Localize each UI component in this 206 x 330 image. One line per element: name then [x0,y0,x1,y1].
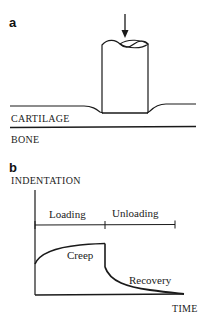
creep-label: Creep [67,249,94,261]
phase-timeline: Loading Unloading [35,207,175,229]
panel-b: b INDENTATION TIME Loading Unloading Cre… [9,160,198,314]
down-arrow-icon [122,14,129,38]
phase-label-loading: Loading [49,208,86,220]
recovery-label: Recovery [129,274,172,286]
x-axis [35,294,184,295]
panel-a: a CARTILAGE BONE [9,14,196,145]
phase-label-unloading: Unloading [112,207,159,219]
indenter-cylinder [102,40,148,113]
indentation-diagram: a CARTILAGE BONE b INDENTATION TIME [0,0,206,330]
bone-boundary [10,127,196,128]
cartilage-label: CARTILAGE [11,113,70,124]
bone-label: BONE [11,134,39,145]
x-axis-label: TIME [172,303,198,314]
panel-b-label: b [9,160,17,175]
y-axis-label: INDENTATION [11,175,81,186]
panel-a-label: a [9,15,17,30]
cartilage-surface [10,104,196,113]
